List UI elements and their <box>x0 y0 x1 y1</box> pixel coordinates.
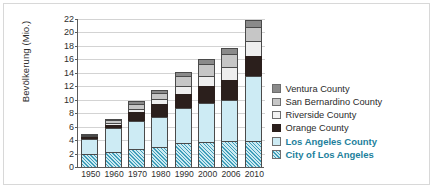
bar-segment-city[interactable] <box>245 141 262 167</box>
legend-label: San Bernardino County <box>286 97 383 107</box>
y-tick-label: 16 <box>64 54 74 64</box>
bar-1980[interactable] <box>151 19 168 167</box>
plot-area: 0246810121416182022 19501960197019801990… <box>77 19 264 168</box>
bar-segment-riv[interactable] <box>175 86 192 94</box>
bar-1950[interactable] <box>81 19 98 167</box>
y-tick-label: 6 <box>69 122 74 132</box>
bar-segment-city[interactable] <box>81 154 98 167</box>
bar-segment-oc[interactable] <box>245 56 262 76</box>
x-tick-label-1980: 1980 <box>151 169 168 179</box>
legend-item-sb[interactable]: San Bernardino County <box>272 95 422 108</box>
bar-segment-lac[interactable] <box>128 121 145 149</box>
bar-segment-city[interactable] <box>175 143 192 167</box>
bar-segment-lac[interactable] <box>175 108 192 144</box>
bar-segment-oc[interactable] <box>221 80 238 100</box>
legend-item-lac[interactable]: Los Angeles County <box>272 135 422 148</box>
legend-label: Ventura County <box>286 84 350 94</box>
bar-segment-oc[interactable] <box>151 104 168 117</box>
legend-item-city[interactable]: City of Los Angeles <box>272 148 422 161</box>
y-tick-label: 4 <box>69 135 74 145</box>
legend-swatch-icon-riv <box>272 111 281 120</box>
bar-segment-riv[interactable] <box>198 76 215 86</box>
bar-segment-sb[interactable] <box>221 54 238 67</box>
bar-1990[interactable] <box>175 19 192 167</box>
bar-2006[interactable] <box>221 19 238 167</box>
legend-label: Riverside County <box>286 110 357 120</box>
y-tick-label: 20 <box>64 27 74 37</box>
bar-segment-ven[interactable] <box>245 20 262 27</box>
bar-2010[interactable] <box>245 19 262 167</box>
legend-item-ven[interactable]: Ventura County <box>272 82 422 95</box>
y-tick-mark <box>75 167 78 168</box>
bar-segment-lac[interactable] <box>221 100 238 140</box>
x-tick-label-1970: 1970 <box>128 169 145 179</box>
bar-group <box>78 19 265 167</box>
bar-segment-riv[interactable] <box>245 41 262 56</box>
bar-segment-oc[interactable] <box>175 94 192 108</box>
legend-label: Los Angeles County <box>286 136 378 147</box>
bar-segment-oc[interactable] <box>128 112 145 121</box>
bar-segment-sb[interactable] <box>175 76 192 85</box>
x-tick-label-1960: 1960 <box>105 169 122 179</box>
x-tick-label-1950: 1950 <box>81 169 98 179</box>
bar-2000[interactable] <box>198 19 215 167</box>
legend-swatch-icon-ven <box>272 84 281 93</box>
bar-segment-lac[interactable] <box>245 76 262 141</box>
bar-segment-city[interactable] <box>198 142 215 167</box>
x-axis-labels: 19501960197019801990200020062010 <box>78 169 265 179</box>
bar-segment-sb[interactable] <box>245 27 262 41</box>
bar-segment-lac[interactable] <box>81 139 98 154</box>
x-tick-label-2000: 2000 <box>198 169 215 179</box>
bar-segment-city[interactable] <box>128 149 145 167</box>
bar-segment-lac[interactable] <box>151 117 168 147</box>
bar-1960[interactable] <box>105 19 122 167</box>
bar-segment-lac[interactable] <box>198 103 215 142</box>
chart-frame: Bevölkerung (Mio.) 0246810121416182022 1… <box>3 3 430 185</box>
y-tick-label: 22 <box>64 14 74 24</box>
legend-item-riv[interactable]: Riverside County <box>272 108 422 121</box>
x-tick-label-2010: 2010 <box>245 169 262 179</box>
bar-segment-city[interactable] <box>105 152 122 167</box>
bar-segment-city[interactable] <box>151 147 168 167</box>
y-tick-label: 10 <box>64 95 74 105</box>
y-tick-label: 14 <box>64 68 74 78</box>
y-tick-label: 2 <box>69 149 74 159</box>
legend-label: Orange County <box>286 123 349 133</box>
legend-item-oc[interactable]: Orange County <box>272 122 422 135</box>
y-axis-title: Bevölkerung (Mio.) <box>20 0 31 127</box>
x-tick-label-1990: 1990 <box>175 169 192 179</box>
legend-swatch-icon-oc <box>272 124 281 133</box>
bar-1970[interactable] <box>128 19 145 167</box>
bar-segment-city[interactable] <box>221 141 238 167</box>
bar-segment-lac[interactable] <box>105 128 122 152</box>
x-tick-label-2006: 2006 <box>221 169 238 179</box>
y-tick-label: 8 <box>69 108 74 118</box>
bar-segment-oc[interactable] <box>198 86 215 103</box>
legend-swatch-icon-lac <box>272 137 281 146</box>
chart-legend: Ventura CountySan Bernardino CountyRiver… <box>272 82 422 161</box>
bar-segment-riv[interactable] <box>221 67 238 80</box>
bar-segment-sb[interactable] <box>198 64 215 75</box>
y-tick-label: 18 <box>64 41 74 51</box>
legend-label: City of Los Angeles <box>286 149 374 160</box>
legend-swatch-icon-sb <box>272 98 281 107</box>
legend-swatch-icon-city <box>272 150 281 159</box>
y-tick-label: 12 <box>64 81 74 91</box>
y-tick-label: 0 <box>69 162 74 172</box>
